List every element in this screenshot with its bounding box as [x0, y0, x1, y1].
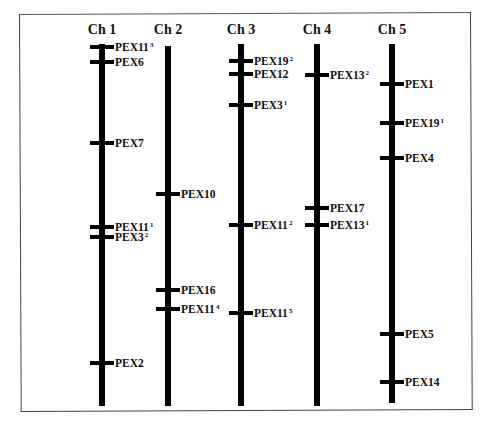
gene-marker — [90, 60, 114, 64]
gene-marker — [229, 311, 253, 315]
gene-marker — [156, 192, 180, 196]
gene-marker — [380, 156, 404, 160]
gene-name: PEX19 — [405, 117, 440, 129]
gene-name: PEX11 — [254, 307, 288, 319]
gene-name: PEX3 — [254, 99, 283, 111]
gene-copy-index: 2 — [289, 219, 293, 227]
gene-marker — [229, 103, 253, 107]
gene-label: PEX16 — [181, 284, 216, 296]
gene-marker — [90, 141, 114, 145]
gene-name: PEX16 — [181, 284, 216, 296]
gene-marker — [90, 45, 114, 49]
gene-copy-index: 1 — [150, 221, 154, 229]
gene-marker — [156, 307, 180, 311]
gene-label: PEX14 — [405, 376, 440, 388]
gene-marker — [90, 361, 114, 365]
chromosome-label: Ch 5 — [378, 22, 406, 38]
chromosome-label: Ch 2 — [154, 22, 182, 38]
gene-marker — [229, 223, 253, 227]
gene-label: PEX113 — [115, 41, 153, 55]
gene-label: PEX6 — [115, 56, 144, 68]
gene-name: PEX7 — [115, 137, 144, 149]
chromosome-label: Ch 3 — [227, 22, 255, 38]
gene-marker — [305, 206, 329, 210]
gene-label: PEX12 — [254, 68, 289, 80]
gene-marker — [229, 72, 253, 76]
gene-name: PEX19 — [254, 55, 289, 67]
gene-label: PEX132 — [330, 69, 369, 83]
gene-name: PEX6 — [115, 56, 144, 68]
gene-name: PEX17 — [330, 202, 365, 214]
gene-marker — [305, 223, 329, 227]
gene-marker — [380, 82, 404, 86]
gene-name: PEX11 — [115, 41, 149, 53]
gene-label: PEX114 — [181, 303, 219, 317]
gene-marker — [380, 332, 404, 336]
gene-name: PEX10 — [181, 188, 216, 200]
gene-label: PEX17 — [330, 202, 365, 214]
gene-label: PEX5 — [405, 328, 434, 340]
gene-label: PEX192 — [254, 55, 293, 69]
gene-name: PEX11 — [254, 219, 288, 231]
gene-marker — [90, 225, 114, 229]
gene-marker — [156, 288, 180, 292]
chromosome-label: Ch 4 — [303, 22, 331, 38]
gene-label: PEX1 — [405, 78, 434, 90]
gene-copy-index: 1 — [284, 99, 288, 107]
gene-label: PEX10 — [181, 188, 216, 200]
gene-copy-index: 3 — [150, 41, 154, 49]
gene-label: PEX7 — [115, 137, 144, 149]
gene-label: PEX32 — [115, 231, 148, 245]
gene-name: PEX2 — [115, 357, 144, 369]
gene-copy-index: 5 — [289, 307, 293, 315]
chromosome-label: Ch 1 — [88, 22, 116, 38]
gene-copy-index: 2 — [290, 55, 294, 63]
gene-marker — [380, 380, 404, 384]
gene-copy-index: 2 — [366, 69, 370, 77]
chromosome-bar — [165, 46, 171, 406]
gene-marker — [229, 59, 253, 63]
gene-marker — [90, 235, 114, 239]
gene-name: PEX5 — [405, 328, 434, 340]
gene-copy-index: 1 — [366, 219, 370, 227]
gene-copy-index: 2 — [145, 231, 149, 239]
gene-marker — [305, 73, 329, 77]
gene-label: PEX191 — [405, 117, 444, 131]
gene-name: PEX3 — [115, 231, 144, 243]
gene-name: PEX13 — [330, 69, 365, 81]
gene-label: PEX2 — [115, 357, 144, 369]
gene-label: PEX112 — [254, 219, 292, 233]
gene-name: PEX13 — [330, 219, 365, 231]
gene-label: PEX31 — [254, 99, 287, 113]
gene-label: PEX115 — [254, 307, 292, 321]
gene-copy-index: 1 — [441, 117, 445, 125]
gene-name: PEX11 — [181, 303, 215, 315]
chromosome-bar — [389, 44, 395, 403]
gene-copy-index: 4 — [216, 303, 220, 311]
gene-label: PEX131 — [330, 219, 369, 233]
gene-label: PEX4 — [405, 152, 434, 164]
gene-name: PEX12 — [254, 68, 289, 80]
gene-name: PEX4 — [405, 152, 434, 164]
gene-name: PEX1 — [405, 78, 434, 90]
gene-name: PEX14 — [405, 376, 440, 388]
gene-marker — [380, 121, 404, 125]
